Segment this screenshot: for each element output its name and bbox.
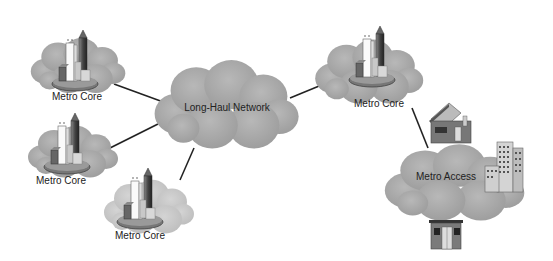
node-label-long-haul: Long-Haul Network — [184, 102, 270, 113]
link-core3-longhaul — [180, 148, 194, 180]
network-diagram — [0, 0, 553, 261]
link-core1-longhaul — [114, 84, 166, 103]
node-label-metro-core-2: Metro Core — [36, 175, 86, 186]
store-icon — [429, 220, 463, 249]
node-label-metro-core-4: Metro Core — [354, 98, 404, 109]
office-building-icon — [485, 142, 523, 192]
node-label-metro-access: Metro Access — [416, 171, 476, 182]
link-core4-access — [412, 108, 428, 148]
node-label-metro-core-1: Metro Core — [52, 91, 102, 102]
link-core2-longhaul — [110, 124, 158, 148]
node-label-metro-core-3: Metro Core — [115, 230, 165, 241]
house-icon — [429, 103, 471, 143]
